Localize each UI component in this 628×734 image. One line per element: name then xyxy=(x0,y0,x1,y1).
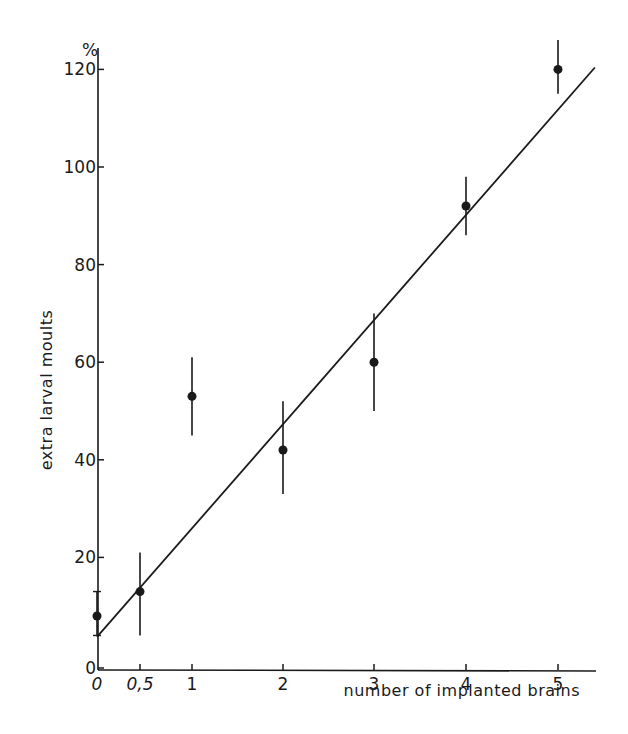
y-tick-label: 120 xyxy=(64,59,96,79)
y-unit-label: % xyxy=(82,40,98,60)
data-point xyxy=(554,40,563,94)
point-marker xyxy=(462,202,471,211)
x-axis xyxy=(98,670,596,671)
x-tick-label: 2 xyxy=(278,674,289,694)
x-tick-label: 1 xyxy=(187,674,198,694)
point-marker xyxy=(188,392,197,401)
point-marker xyxy=(554,65,563,74)
data-point xyxy=(279,401,288,494)
y-tick-label: 60 xyxy=(74,352,96,372)
point-marker xyxy=(93,611,102,620)
point-marker xyxy=(136,587,145,596)
data-point xyxy=(370,313,379,411)
y-tick-label: 20 xyxy=(74,547,96,567)
data-point xyxy=(188,357,197,435)
data-point xyxy=(93,592,102,636)
x-tick-label: 0,5 xyxy=(126,674,153,694)
data-points xyxy=(93,40,563,635)
y-tick-label: 80 xyxy=(74,255,96,275)
point-marker xyxy=(370,358,379,367)
data-point xyxy=(462,177,471,236)
x-tick-label: 0 xyxy=(92,674,103,694)
point-marker xyxy=(279,446,288,455)
y-tick-label: 40 xyxy=(74,450,96,470)
scatter-chart: 020406080100120 00,512345 % extra larval… xyxy=(0,0,628,734)
data-point xyxy=(136,553,145,636)
x-axis-title: number of implanted brains xyxy=(344,681,580,700)
y-axis-title: extra larval moults xyxy=(37,310,56,470)
fit-line xyxy=(97,68,595,637)
y-tick-label: 100 xyxy=(64,157,96,177)
axes xyxy=(98,48,596,671)
regression-line xyxy=(97,68,595,637)
